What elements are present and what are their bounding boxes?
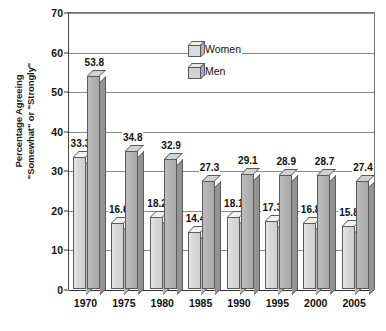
bar-front-face bbox=[125, 151, 138, 289]
bar-side-face bbox=[369, 181, 375, 295]
bar-front-face bbox=[279, 175, 292, 289]
bar-women-1995[interactable]: 17.3 bbox=[265, 221, 278, 289]
bar-front-face bbox=[265, 221, 278, 289]
x-tick-label-1995: 1995 bbox=[266, 297, 289, 309]
bar-men-1980[interactable]: 32.9 bbox=[164, 159, 177, 289]
cube-icon-dark bbox=[188, 63, 201, 79]
bar-men-1985[interactable]: 27.3 bbox=[202, 181, 215, 289]
y-axis-title-line2: "Somewhat" or "Strongly" bbox=[25, 31, 37, 211]
bar-front-face bbox=[73, 157, 86, 289]
bar-men-1975[interactable]: 34.8 bbox=[125, 151, 138, 289]
x-tick-label-2005: 2005 bbox=[342, 297, 365, 309]
bar-front-face bbox=[87, 76, 100, 289]
y-tick-mark-50 bbox=[64, 92, 69, 93]
bar-front-face bbox=[111, 223, 124, 289]
bar-front-face bbox=[164, 159, 177, 289]
bar-women-2005[interactable]: 15.8 bbox=[342, 226, 355, 289]
bar-women-1975[interactable]: 16.6 bbox=[111, 223, 124, 289]
y-axis-title: Percentage Agreeing "Somewhat" or "Stron… bbox=[13, 31, 43, 211]
bar-group-2000: 16.828.7 bbox=[303, 12, 336, 289]
bar-men-1990[interactable]: 29.1 bbox=[241, 174, 254, 289]
bar-group-1980: 18.232.9 bbox=[150, 12, 183, 289]
bar-front-face bbox=[150, 217, 163, 289]
bar-side-face bbox=[177, 159, 183, 295]
y-tick-mark-0 bbox=[64, 290, 69, 291]
bar-chart: Percentage Agreeing "Somewhat" or "Stron… bbox=[0, 0, 386, 331]
bar-value-label: 27.3 bbox=[199, 162, 220, 173]
bar-group-2005: 15.827.4 bbox=[342, 12, 375, 289]
x-tick-label-2000: 2000 bbox=[304, 297, 327, 309]
y-tick-label-70: 70 bbox=[51, 7, 63, 19]
bar-side-face bbox=[254, 174, 260, 295]
y-tick-mark-30 bbox=[64, 171, 69, 172]
x-tick-label-1970: 1970 bbox=[74, 297, 97, 309]
y-tick-label-10: 10 bbox=[51, 244, 63, 256]
bar-front-face bbox=[202, 181, 215, 289]
bar-front-face bbox=[317, 175, 330, 289]
bar-front-face bbox=[227, 217, 240, 289]
legend-item-women[interactable]: Women bbox=[188, 38, 298, 60]
bar-side-face bbox=[100, 76, 106, 295]
chart-legend: Women Men bbox=[188, 38, 298, 82]
bar-value-label: 34.8 bbox=[122, 132, 143, 143]
bar-value-label: 28.9 bbox=[275, 156, 296, 167]
y-tick-label-20: 20 bbox=[51, 205, 63, 217]
legend-label-women: Women bbox=[204, 43, 242, 55]
cube-icon-light bbox=[188, 41, 201, 57]
bar-value-label: 53.8 bbox=[84, 57, 105, 68]
bar-side-face bbox=[292, 175, 298, 295]
bar-value-label: 29.1 bbox=[237, 155, 258, 166]
legend-item-men[interactable]: Men bbox=[188, 60, 298, 82]
y-tick-mark-20 bbox=[64, 210, 69, 211]
bar-women-1970[interactable]: 33.3 bbox=[73, 157, 86, 289]
bar-group-1970: 33.353.8 bbox=[73, 12, 106, 289]
bar-women-2000[interactable]: 16.8 bbox=[303, 223, 316, 289]
bar-side-face bbox=[215, 181, 221, 295]
x-tick-label-1985: 1985 bbox=[189, 297, 212, 309]
bar-value-label: 27.4 bbox=[352, 162, 373, 173]
gridline-0: 0 bbox=[69, 290, 374, 291]
y-tick-mark-40 bbox=[64, 131, 69, 132]
bar-men-2005[interactable]: 27.4 bbox=[356, 181, 369, 289]
bar-women-1985[interactable]: 14.4 bbox=[188, 232, 201, 289]
bar-side-face bbox=[330, 175, 336, 295]
y-tick-label-50: 50 bbox=[51, 86, 63, 98]
y-tick-mark-60 bbox=[64, 52, 69, 53]
x-tick-label-1975: 1975 bbox=[112, 297, 135, 309]
bar-front-face bbox=[188, 232, 201, 289]
bar-front-face bbox=[303, 223, 316, 289]
bar-side-face bbox=[138, 151, 144, 295]
y-tick-label-0: 0 bbox=[57, 284, 63, 296]
bar-men-2000[interactable]: 28.7 bbox=[317, 175, 330, 289]
legend-label-men: Men bbox=[204, 65, 226, 77]
bar-front-face bbox=[356, 181, 369, 289]
y-tick-label-60: 60 bbox=[51, 47, 63, 59]
y-axis-title-line1: Percentage Agreeing bbox=[13, 31, 25, 211]
y-tick-label-30: 30 bbox=[51, 165, 63, 177]
bar-value-label: 28.7 bbox=[314, 156, 335, 167]
x-tick-label-1990: 1990 bbox=[227, 297, 250, 309]
bar-front-face bbox=[241, 174, 254, 289]
bar-men-1995[interactable]: 28.9 bbox=[279, 175, 292, 289]
bar-front-face bbox=[342, 226, 355, 289]
bar-women-1990[interactable]: 18.1 bbox=[227, 217, 240, 289]
x-tick-label-1980: 1980 bbox=[151, 297, 174, 309]
bar-men-1970[interactable]: 53.8 bbox=[87, 76, 100, 289]
y-tick-label-40: 40 bbox=[51, 126, 63, 138]
y-tick-mark-70 bbox=[64, 13, 69, 14]
bar-value-label: 32.9 bbox=[160, 140, 181, 151]
bar-group-1975: 16.634.8 bbox=[111, 12, 144, 289]
bar-women-1980[interactable]: 18.2 bbox=[150, 217, 163, 289]
y-tick-mark-10 bbox=[64, 250, 69, 251]
